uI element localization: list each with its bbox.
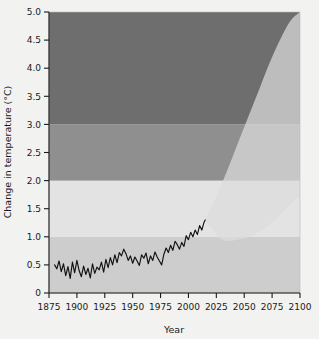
y-tick-label: 1.5	[27, 204, 41, 214]
y-tick-label: 5.0	[27, 7, 42, 17]
chart-canvas: 00.51.01.52.02.53.03.54.04.55.0 18751900…	[0, 0, 319, 339]
y-axis-title: Change in temperature (°C)	[2, 86, 13, 219]
x-axis-title: Year	[163, 324, 184, 335]
y-tick-label: 4.5	[27, 35, 41, 45]
plot-bands-group	[49, 12, 300, 293]
y-tick-label: 3.0	[27, 120, 42, 130]
y-tick-label: 0.5	[27, 260, 41, 270]
y-tick-label: 0	[35, 288, 41, 298]
x-tick-label: 2100	[289, 302, 312, 312]
x-tick-label: 1925	[93, 302, 116, 312]
x-tick-label: 1900	[65, 302, 88, 312]
x-tick-label: 2025	[205, 302, 228, 312]
y-tick-label: 1.0	[27, 232, 42, 242]
y-tick-label: 2.0	[27, 176, 42, 186]
x-tick-label: 1950	[121, 302, 144, 312]
x-tick-label: 2075	[261, 302, 284, 312]
y-tick-label: 2.5	[27, 148, 41, 158]
climate-projection-figure: 00.51.01.52.02.53.03.54.04.55.0 18751900…	[0, 0, 319, 339]
x-tick-label: 2000	[177, 302, 200, 312]
x-tick-label: 1875	[38, 302, 61, 312]
x-tick-label: 1975	[149, 302, 172, 312]
x-tick-label: 2050	[233, 302, 256, 312]
y-tick-label: 3.5	[27, 92, 41, 102]
y-tick-label: 4.0	[27, 63, 42, 73]
